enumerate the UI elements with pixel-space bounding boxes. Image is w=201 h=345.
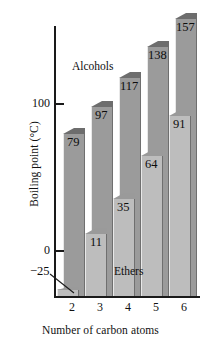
series-label-ethers: Ethers [114,265,143,277]
y-tick-0 [55,250,64,252]
y-tick-label-100: 100 [20,97,50,109]
y-axis-line [54,26,56,297]
value-label-ether-3: 11 [90,236,102,249]
bar-front-face [169,116,191,296]
value-label-ether-5: 64 [145,158,158,171]
value-label-alcohol-3: 97 [95,109,108,122]
x-tick-label-6: 6 [174,300,194,315]
value-label-ether-4: 35 [117,201,130,214]
x-axis-title: Number of carbon atoms [0,324,201,336]
bar-alcohol-2 [63,128,85,296]
x-tick-label-2: 2 [62,300,82,315]
value-label-alcohol-4: 117 [120,80,138,93]
bar-ether-5 [141,150,163,296]
x-tick-label-4: 4 [118,300,138,315]
value-label-ether-2: −25 [30,265,50,278]
x-axis-line [54,296,200,298]
x-tick-label-5: 5 [146,300,166,315]
value-label-alcohol-2: 79 [67,136,80,149]
bar-ether-6 [169,110,191,296]
y-tick-label-0: 0 [20,244,50,256]
plot-area: 79 97 117 138 157 11 35 64 91 −25 Alcoho… [0,0,201,345]
value-label-ether-6: 91 [173,118,186,131]
bar-front-face [141,156,163,296]
bar-chart: Boiling point (°C) [0,0,201,345]
series-label-alcohols: Alcohols [72,60,114,72]
x-tick-label-3: 3 [90,300,110,315]
y-tick-100 [55,103,64,105]
value-label-alcohol-5: 138 [148,49,167,62]
value-label-alcohol-6: 157 [176,21,195,34]
